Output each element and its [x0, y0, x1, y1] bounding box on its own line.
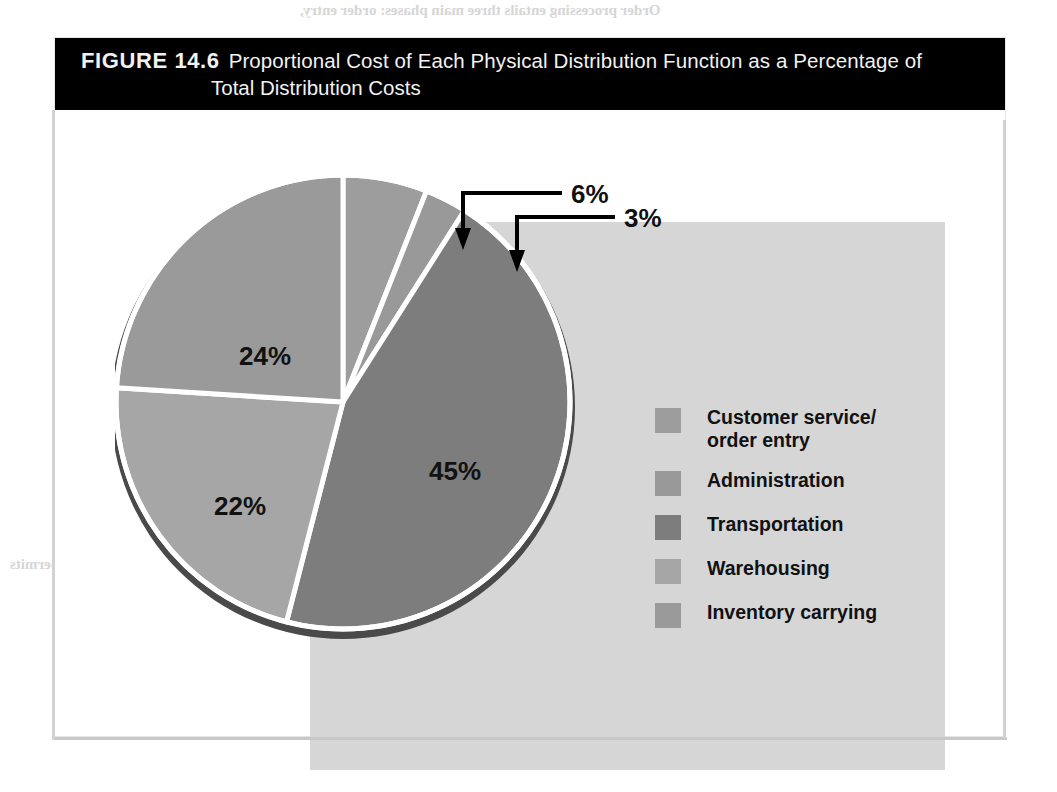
page-right-rule [1003, 120, 1006, 738]
legend-item-customer-service[interactable]: Customer service/ order entry [655, 406, 955, 452]
legend-item-label: Inventory carrying [707, 601, 877, 624]
figure-number: FIGURE 14.6 [81, 48, 220, 73]
pie-slice[interactable] [116, 175, 343, 402]
slice-label-customer-service: 6% [571, 179, 609, 209]
page-left-rule [52, 110, 55, 740]
legend-item-administration[interactable]: Administration [655, 469, 955, 496]
legend-item-label: Transportation [707, 513, 844, 536]
figure-caption: Proportional Cost of Each Physical Distr… [229, 49, 922, 72]
legend-item-label: Administration [707, 469, 845, 492]
slice-label-warehousing: 22% [214, 491, 266, 521]
callout-administration: 3% [509, 203, 662, 272]
figure-title-line-2: Total Distribution Costs [81, 74, 979, 101]
figure-panel: FIGURE 14.6Proportional Cost of Each Phy… [55, 38, 1005, 736]
legend-item-label: Customer service/ order entry [707, 406, 876, 452]
legend-swatch-icon [655, 471, 681, 496]
legend-swatch-icon [655, 603, 681, 628]
legend-swatch-icon [655, 559, 681, 584]
bleed-text-line: Order processing entails three main phas… [300, 2, 661, 19]
chart-legend: Customer service/ order entry Administra… [655, 406, 955, 645]
slice-label-inventory-carrying: 24% [239, 341, 291, 371]
legend-item-label: Warehousing [707, 557, 830, 580]
legend-swatch-icon [655, 408, 681, 433]
figure-title-bar: FIGURE 14.6Proportional Cost of Each Phy… [55, 38, 1005, 110]
legend-item-warehousing[interactable]: Warehousing [655, 557, 955, 584]
callout-line-3 [517, 217, 615, 252]
slice-label-administration: 3% [624, 203, 662, 233]
pie-chart: 6% 3% 24% 22% 45% [115, 170, 675, 670]
figure-title-line-1: FIGURE 14.6Proportional Cost of Each Phy… [81, 47, 979, 74]
legend-swatch-icon [655, 515, 681, 540]
slice-label-transportation: 45% [429, 456, 481, 486]
legend-item-inventory-carrying[interactable]: Inventory carrying [655, 601, 955, 628]
legend-item-transportation[interactable]: Transportation [655, 513, 955, 540]
chart-stage: 6% 3% 24% 22% 45% Customer service/ orde… [55, 110, 1005, 736]
